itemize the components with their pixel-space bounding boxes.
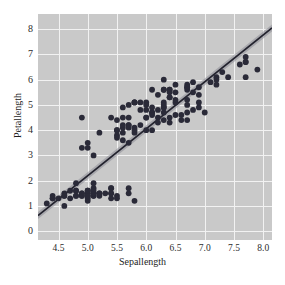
data-layer <box>38 14 272 240</box>
data-point <box>126 140 132 146</box>
data-point <box>161 87 167 93</box>
data-point <box>243 54 249 60</box>
x-axis-label: Sepallength <box>0 256 285 267</box>
data-point <box>184 117 190 123</box>
data-point <box>61 193 67 199</box>
data-point <box>190 89 196 95</box>
data-point <box>132 99 138 105</box>
data-point <box>184 97 190 103</box>
data-point <box>114 117 120 123</box>
y-axis-label: Petallength <box>12 61 23 171</box>
regression-line <box>38 28 272 216</box>
data-point <box>108 190 114 196</box>
data-point <box>120 122 126 128</box>
data-point <box>126 190 132 196</box>
data-point <box>126 115 132 121</box>
data-point <box>114 135 120 141</box>
data-point <box>132 127 138 133</box>
data-point <box>167 94 173 100</box>
data-point <box>137 122 143 128</box>
data-point <box>44 200 50 206</box>
data-point <box>120 137 126 143</box>
data-point <box>167 120 173 126</box>
data-point <box>56 195 62 201</box>
data-point <box>214 77 220 83</box>
data-point <box>208 79 214 85</box>
data-point <box>137 99 143 105</box>
data-point <box>254 67 260 73</box>
data-point <box>50 195 56 201</box>
data-point <box>155 92 161 98</box>
data-point <box>161 102 167 108</box>
data-point <box>108 195 114 201</box>
data-point <box>243 74 249 80</box>
data-point <box>143 127 149 133</box>
data-point <box>114 127 120 133</box>
data-point <box>196 92 202 98</box>
data-point <box>173 82 179 88</box>
data-point <box>149 127 155 133</box>
data-point <box>114 195 120 201</box>
data-point <box>184 84 190 90</box>
y-tick-label: 0 <box>11 226 33 236</box>
data-point <box>85 188 91 194</box>
data-point <box>102 190 108 196</box>
data-point <box>79 115 85 121</box>
data-point <box>178 112 184 118</box>
data-point <box>155 107 161 113</box>
data-point <box>173 89 179 95</box>
data-point <box>85 145 91 151</box>
data-point <box>178 117 184 123</box>
data-point <box>132 198 138 204</box>
data-point <box>202 110 208 116</box>
scatter-points <box>44 54 260 209</box>
data-point <box>149 112 155 118</box>
data-point <box>196 99 202 105</box>
data-point <box>167 89 173 95</box>
data-point <box>73 180 79 186</box>
data-point <box>196 84 202 90</box>
data-point <box>108 115 114 121</box>
data-point <box>149 105 155 111</box>
data-point <box>219 69 225 75</box>
data-point <box>190 79 196 85</box>
data-point <box>126 102 132 108</box>
data-point <box>73 188 79 194</box>
data-point <box>196 105 202 111</box>
scatter-plot-figure: 012345678 4.55.05.56.06.57.07.58.0 Sepal… <box>0 0 285 285</box>
data-point <box>120 105 126 111</box>
data-point <box>143 102 149 108</box>
data-point <box>120 115 126 121</box>
data-point <box>126 185 132 191</box>
data-point <box>161 77 167 83</box>
data-point <box>225 74 231 80</box>
data-point <box>97 130 103 136</box>
data-point <box>108 185 114 191</box>
data-point <box>120 130 126 136</box>
data-point <box>85 193 91 199</box>
data-point <box>91 153 97 159</box>
data-point <box>91 188 97 194</box>
data-point <box>167 115 173 121</box>
data-point <box>143 107 149 113</box>
data-point <box>190 107 196 113</box>
x-tick-label: 8.0 <box>246 243 280 253</box>
data-point <box>184 102 190 108</box>
data-point <box>79 193 85 199</box>
y-tick-label: 8 <box>11 24 33 34</box>
data-point <box>61 203 67 209</box>
data-point <box>173 97 179 103</box>
data-point <box>173 112 179 118</box>
y-tick-label: 7 <box>11 49 33 59</box>
data-point <box>91 180 97 186</box>
data-point <box>137 107 143 113</box>
data-point <box>97 190 103 196</box>
data-point <box>85 140 91 146</box>
data-point <box>149 87 155 93</box>
y-tick-label: 1 <box>11 201 33 211</box>
data-point <box>67 195 73 201</box>
data-point <box>243 59 249 65</box>
data-point <box>79 145 85 151</box>
data-point <box>161 110 167 116</box>
data-point <box>237 62 243 68</box>
